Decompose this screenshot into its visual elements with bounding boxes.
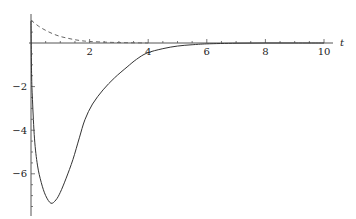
line-chart: 246810−2−4−6t <box>0 0 356 219</box>
tick-labels: 246810−2−4−6t <box>12 37 345 179</box>
x-tick-label: 8 <box>262 46 268 57</box>
x-tick-label: 10 <box>318 46 331 57</box>
x-axis-label: t <box>340 37 345 48</box>
y-tick-label: −2 <box>12 81 27 92</box>
axes <box>29 14 333 216</box>
series-group <box>31 20 324 203</box>
x-tick-label: 6 <box>204 46 210 57</box>
y-tick-label: −6 <box>12 168 27 179</box>
x-tick-label: 2 <box>86 46 92 57</box>
y-tick-label: −4 <box>12 125 27 136</box>
x-tick-label: 4 <box>145 46 151 57</box>
solid-curve <box>31 21 324 203</box>
